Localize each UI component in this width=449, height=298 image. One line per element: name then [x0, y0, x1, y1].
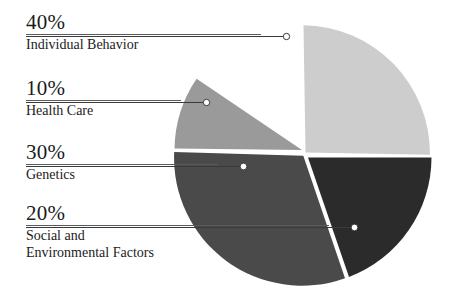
callout-percent-health-care: 10% — [26, 77, 181, 99]
callout-rule-health-care — [26, 100, 181, 101]
callout-caption-individual-behavior: Individual Behavior — [26, 37, 261, 54]
marker-dot-health-care — [203, 99, 209, 105]
callout-percent-individual-behavior: 40% — [26, 11, 261, 33]
pie-chart-figure: 40% Individual Behavior 10% Health Care … — [0, 0, 449, 298]
callout-percent-genetics: 30% — [26, 141, 218, 163]
pie-slice-health-care[interactable] — [175, 79, 303, 150]
callout-caption-health-care: Health Care — [26, 103, 181, 120]
callout-caption-social-environmental-line2: Environmental Factors — [26, 245, 329, 262]
marker-dot-individual-behavior — [283, 33, 289, 39]
callout-individual-behavior: 40% Individual Behavior — [26, 11, 261, 54]
callout-rule-genetics — [26, 164, 218, 165]
callout-caption-genetics: Genetics — [26, 167, 218, 184]
callout-genetics: 30% Genetics — [26, 141, 218, 184]
callout-social-environmental: 20% Social and Environmental Factors — [26, 202, 329, 261]
callout-rule-social-environmental — [26, 225, 329, 226]
callout-rule-individual-behavior — [26, 34, 261, 35]
marker-dot-social-environmental — [351, 224, 358, 231]
callout-caption-social-environmental: Social and — [26, 228, 329, 245]
callout-percent-social-environmental: 20% — [26, 202, 329, 224]
marker-dot-genetics — [240, 163, 247, 170]
callout-health-care: 10% Health Care — [26, 77, 181, 120]
pie-slice-individual-behavior[interactable] — [304, 25, 430, 155]
